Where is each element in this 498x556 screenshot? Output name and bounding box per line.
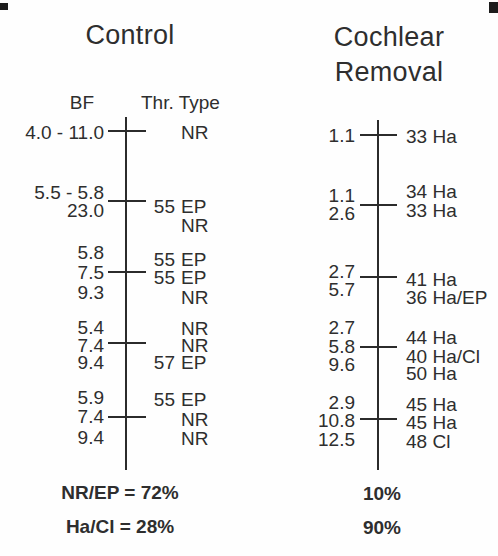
bf-value: 10.8 [300,411,355,431]
bf-value: 5.9 [18,388,104,408]
type-value: 34 Ha [406,182,457,202]
cochlear-removal-title-line2: Removal [314,55,464,90]
threshold-value: 55 [144,390,175,410]
cochlear-tick-4 [360,346,397,348]
type-value: 45 Ha [406,413,457,433]
control-tick-5 [108,416,146,418]
thr-type-entry: NR [144,123,214,143]
thr-type-entry: 55 EP [144,390,214,410]
cochlear-tick-1 [360,134,397,136]
threshold-value [144,216,175,236]
control-thr-type-header: Thr. Type [141,93,220,113]
cochlear-summary-percent-1: 10% [322,484,442,504]
threshold-value [144,288,175,308]
threshold-value: 57 [144,353,175,373]
bf-value: 9.6 [300,355,355,375]
bf-value: 7.5 [18,263,104,283]
thr-type-entry: NR [144,429,214,449]
cochlear-removal-title-line1: Cochlear [314,20,464,55]
type-value: EP [181,197,206,217]
type-value: NR [181,288,208,308]
type-value: 33 Ha [406,201,457,221]
threshold-value [144,123,175,143]
type-value: 36 Ha/EP [406,288,487,308]
bf-value: 5.7 [300,280,355,300]
control-summary-ha-cl: Ha/Cl = 28% [40,517,200,537]
cochlear-tick-5 [360,418,397,420]
bf-value: 4.0 - 11.0 [18,123,104,143]
threshold-value: 55 [144,268,175,288]
type-value: 50 Ha [406,364,457,384]
cochlear-tick-3 [360,276,397,278]
scan-artifact-top-left [0,3,8,10]
control-tick-2 [108,200,146,202]
bf-value: 2.7 [300,318,355,338]
scan-artifact-top-right [489,2,498,13]
bf-value: 12.5 [300,430,355,450]
bf-value: 23.0 [18,201,104,221]
type-value: NR [181,429,208,449]
thr-type-entry: NR [144,410,214,430]
type-value: NR [181,123,208,143]
control-bf-header: BF [60,93,104,113]
type-value: EP [181,390,206,410]
control-tick-3 [108,271,146,273]
threshold-value: 55 [144,197,175,217]
cochlear-summary-percent-2: 90% [322,518,442,538]
bf-value: 9.3 [18,283,104,303]
control-tick-4 [108,342,146,344]
type-value: 44 Ha [406,328,457,348]
cochlear-removal-title: Cochlear Removal [314,20,464,90]
thr-type-entry: 57 EP [144,353,214,373]
type-value: EP [181,268,206,288]
bf-value: 9.4 [18,428,104,448]
thr-type-entry: 55 EP [144,268,214,288]
threshold-value [144,429,175,449]
cochlear-tick-2 [360,204,397,206]
bf-value: 2.6 [300,204,355,224]
threshold-value [144,410,175,430]
thr-type-entry: NR [144,288,214,308]
bf-value: 5.8 [18,243,104,263]
control-title: Control [55,18,205,53]
type-value: EP [181,353,206,373]
figure: Control BF Thr. Type 4.0 - 11.0 5.5 - 5.… [0,0,498,556]
thr-type-entry: 55 EP [144,197,214,217]
control-summary-nr-ep: NR/EP = 72% [40,483,200,503]
type-value: NR [181,410,208,430]
type-value: 33 Ha [406,127,457,147]
bf-value: 9.4 [18,353,104,373]
type-value: 48 Cl [406,432,450,452]
type-value: NR [181,216,208,236]
thr-type-entry: NR [144,216,214,236]
bf-value: 7.4 [18,407,104,427]
bf-value: 1.1 [300,126,355,146]
control-tick-1 [108,130,146,132]
